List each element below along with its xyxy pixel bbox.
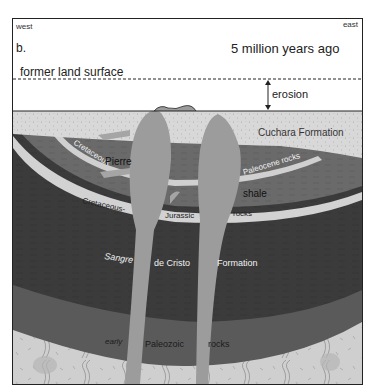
east-label: east	[343, 20, 359, 29]
geologic-cross-section: west east b. 5 million years ago former …	[0, 0, 373, 392]
de-cristo-label: de Cristo	[154, 258, 190, 268]
erosion-label: erosion	[272, 88, 308, 100]
title: 5 million years ago	[231, 41, 339, 56]
west-label: west	[15, 22, 33, 31]
cuchara-label: Cuchara Formation	[258, 127, 344, 138]
jurassic-label: Jurassic	[165, 211, 194, 220]
jurassic-rocks-label: rocks	[233, 209, 252, 218]
paleozoic-rocks-label: rocks	[208, 339, 230, 349]
early-label: early	[105, 337, 123, 346]
pierre-label: Pierre	[105, 156, 132, 167]
paleozoic-label: Paleozoic	[145, 339, 185, 349]
former-land-surface-label: former land surface	[20, 65, 124, 79]
formation-label: Formation	[217, 258, 258, 268]
panel-label: b.	[16, 41, 26, 55]
shale-label: shale	[243, 188, 267, 199]
